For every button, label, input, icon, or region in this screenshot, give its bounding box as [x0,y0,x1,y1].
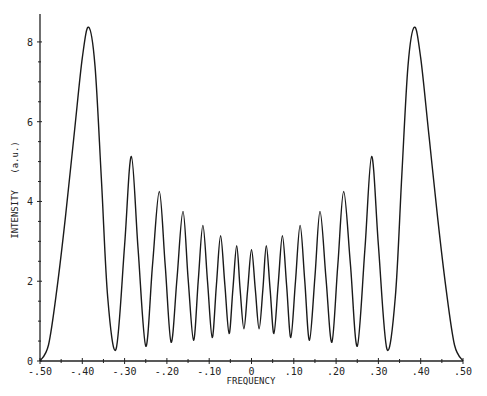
x-tick-label: .10 [285,366,303,377]
x-tick-label: .40 [412,366,430,377]
intensity-chart: -.50-.40-.30-.20-.100.10.20.30.40.500246… [0,0,487,396]
x-tick-label: -.30 [113,366,137,377]
x-tick-label: .20 [327,366,345,377]
tick-labels: -.50-.40-.30-.20-.100.10.20.30.40.500246… [27,37,472,377]
y-tick-label: 6 [27,117,33,128]
x-tick-label: -.20 [155,366,179,377]
x-tick-label: -.10 [197,366,221,377]
axes [40,14,463,361]
x-tick-label: -.40 [70,366,94,377]
x-tick-label: .50 [454,366,472,377]
y-tick-label: 0 [27,356,33,367]
y-tick-label: 8 [27,37,33,48]
x-tick-label: .30 [369,366,387,377]
intensity-curve [40,27,463,361]
y-tick-label: 4 [27,196,33,207]
x-tick-label: -.50 [28,366,52,377]
ticks [37,42,463,364]
y-tick-label: 2 [27,276,33,287]
x-axis-title: FREQUENCY [227,376,276,386]
y-axis-title: INTENSITY (a.u.) [10,141,20,239]
